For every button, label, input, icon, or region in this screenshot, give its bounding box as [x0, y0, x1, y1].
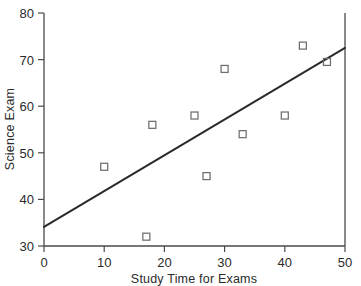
x-tick-label-50: 50: [338, 255, 352, 270]
y-tick-label-50: 50: [20, 146, 34, 161]
chart-canvas: 80 70 60 50 40 30 0 10 20 30 40 50 Study…: [0, 0, 361, 286]
y-tick-label-80: 80: [20, 6, 34, 21]
y-tick-label-70: 70: [20, 53, 34, 68]
y-tick-label-60: 60: [20, 99, 34, 114]
x-axis-title: Study Time for Exams: [131, 272, 257, 286]
scatter-plot-figure: 80 70 60 50 40 30 0 10 20 30 40 50 Study…: [0, 0, 361, 286]
y-tick-label-30: 30: [20, 239, 34, 254]
x-tick-label-20: 20: [157, 255, 171, 270]
x-tick-label-40: 40: [278, 255, 292, 270]
y-axis-title: Science Exam: [3, 88, 17, 170]
x-tick-label-30: 30: [217, 255, 231, 270]
y-tick-label-40: 40: [20, 192, 34, 207]
x-tick-label-0: 0: [40, 255, 47, 270]
x-tick-label-10: 10: [97, 255, 111, 270]
